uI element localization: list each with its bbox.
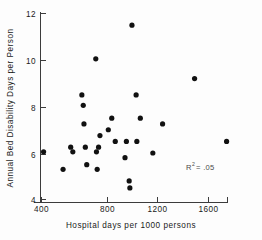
data-point [224, 139, 229, 144]
data-point [134, 139, 139, 144]
y-tick-label: 8 [31, 104, 36, 113]
data-point [97, 133, 102, 138]
data-point [113, 139, 118, 144]
y-axis-title: Annual Bed Disability Days per Person [6, 28, 15, 187]
data-point [122, 155, 127, 160]
data-point [134, 92, 139, 97]
r-squared-superscript: 2 [192, 161, 195, 167]
data-point [192, 76, 197, 81]
data-point [60, 167, 65, 172]
data-point [70, 149, 75, 154]
data-point [95, 167, 100, 172]
data-point [129, 23, 134, 28]
y-axis-tick-labels: 12 10 8 6 4 [26, 10, 36, 205]
y-tick-label: 12 [26, 10, 36, 19]
x-tick-label: 400 [34, 205, 49, 214]
x-tick-label: 800 [100, 205, 115, 214]
y-tick-label: 10 [26, 57, 36, 66]
x-axis-ticks [42, 197, 228, 203]
x-axis-title: Hospital days per 1000 persons [66, 221, 196, 230]
data-point [84, 162, 89, 167]
data-point [83, 145, 88, 150]
data-point [81, 103, 86, 108]
data-point [94, 149, 99, 154]
data-point [127, 178, 132, 183]
data-point [109, 116, 114, 121]
y-axis-ticks [41, 14, 47, 200]
data-point [160, 121, 165, 126]
data-point [68, 145, 73, 150]
y-tick-label: 4 [31, 196, 36, 205]
x-tick-label: 1200 [148, 205, 168, 214]
data-point [127, 185, 132, 190]
data-point [124, 139, 129, 144]
figure-container: 12 10 8 6 4 400 800 1200 1600 Hospital d… [0, 0, 262, 240]
data-point [93, 56, 98, 61]
r-squared-value: = .05 [196, 163, 215, 172]
r-squared-annotation: R 2 = .05 [186, 161, 215, 172]
data-point [138, 116, 143, 121]
data-point [79, 92, 84, 97]
data-point [150, 150, 155, 155]
data-point [41, 149, 46, 154]
x-axis-tick-labels: 400 800 1200 1600 [34, 205, 218, 214]
scatter-plot: 12 10 8 6 4 400 800 1200 1600 Hospital d… [0, 0, 262, 240]
data-point [106, 127, 111, 132]
data-point [96, 145, 101, 150]
y-tick-label: 6 [31, 151, 36, 160]
data-point [81, 121, 86, 126]
x-tick-label: 1600 [199, 205, 219, 214]
